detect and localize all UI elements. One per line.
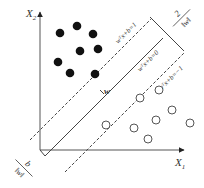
x-axis-label: X1	[174, 156, 185, 171]
hollow-point	[144, 135, 152, 143]
hollow-points	[102, 86, 194, 143]
filled-point	[94, 45, 103, 54]
svm-diagram: X2 X1 w wᵀx+b=1 wᵀx+b=0 wᵀx+b=−1 2 ‖w‖ b…	[0, 0, 204, 188]
filled-point	[91, 70, 100, 79]
hollow-point	[152, 116, 160, 124]
hollow-point	[136, 94, 144, 102]
margin-width-label: 2 ‖w‖	[165, 2, 198, 35]
filled-point	[89, 30, 98, 39]
hollow-point	[130, 124, 138, 132]
filled-point	[76, 47, 85, 56]
normal-vector-label: w	[104, 86, 111, 96]
svg-text:2: 2	[172, 8, 183, 19]
y-axis-label: X2	[25, 7, 37, 22]
lower-margin-line	[65, 53, 184, 172]
filled-point	[66, 69, 75, 78]
upper-margin-label: wᵀx+b=1	[114, 21, 139, 46]
hollow-point	[102, 121, 110, 129]
hollow-point	[186, 119, 194, 127]
filled-points	[54, 22, 103, 79]
filled-point	[54, 58, 63, 67]
hollow-point	[155, 86, 163, 94]
hollow-point	[168, 106, 176, 114]
offset-segment	[40, 150, 45, 156]
offset-label: b ‖w‖	[8, 152, 41, 185]
filled-point	[56, 29, 65, 38]
filled-point	[73, 22, 82, 31]
svg-text:b: b	[23, 159, 34, 170]
